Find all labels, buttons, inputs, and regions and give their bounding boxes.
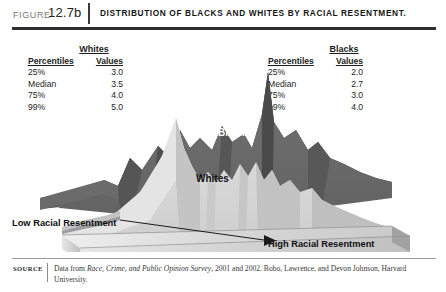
figure-container: FIGURE 12.7b DISTRIBUTION OF BLACKS AND … xyxy=(0,0,446,292)
source-note: SOURCEData from Race, Crime, and Public … xyxy=(13,264,437,285)
source-text: Data from Race, Crime, and Public Opinio… xyxy=(54,264,426,285)
source-text-before: Data from xyxy=(54,264,87,273)
figure-number: 12.7b xyxy=(48,5,82,20)
whites-series-label: Whites xyxy=(196,173,229,184)
figure-label: FIGURE xyxy=(13,10,51,20)
header-vertical-divider xyxy=(88,3,90,24)
source-divider xyxy=(12,258,436,259)
axis-label-high: High Racial Resentment xyxy=(268,239,374,249)
figure-title: DISTRIBUTION OF BLACKS AND WHITES BY RAC… xyxy=(100,8,406,18)
source-text-italic: Race, Crime, and Public Opinion Survey xyxy=(87,264,211,273)
axis-label-low: Low Racial Resentment xyxy=(12,218,116,228)
blacks-series-label: Blacks xyxy=(218,127,251,138)
source-vertical-bar xyxy=(47,263,48,282)
source-label: SOURCE xyxy=(13,264,47,275)
figure-header: FIGURE 12.7b DISTRIBUTION OF BLACKS AND … xyxy=(0,0,446,26)
